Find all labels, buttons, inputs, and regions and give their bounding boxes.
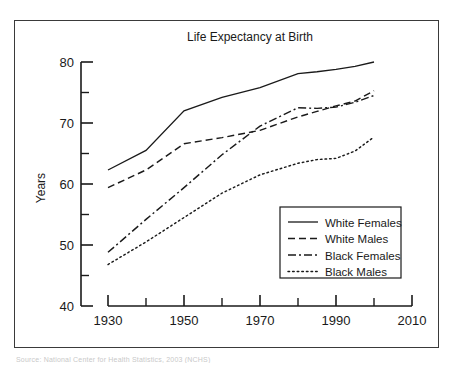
x-axis-tick-labels: 19301950197019902010 [94, 313, 427, 328]
y-axis-tick-labels: 4050607080 [60, 55, 74, 314]
series-line-white-females [108, 62, 374, 170]
chart-legend[interactable]: White FemalesWhite MalesBlack FemalesBla… [280, 207, 402, 278]
legend-label-black-females[interactable]: Black Females [325, 250, 401, 262]
y-tick-label: 60 [60, 177, 74, 192]
x-tick-label: 1970 [246, 313, 275, 328]
y-axis-ticks [81, 62, 93, 306]
figure-caption: Source: National Center for Health Stati… [16, 356, 446, 363]
x-tick-label: 2010 [398, 313, 427, 328]
legend-label-white-females[interactable]: White Females [325, 217, 402, 229]
y-tick-label: 40 [60, 299, 74, 314]
x-tick-label: 1990 [322, 313, 351, 328]
series-line-white-males [108, 91, 374, 188]
chart-title: Life Expectancy at Birth [187, 30, 313, 44]
y-tick-label: 50 [60, 238, 74, 253]
y-axis-title: Years [34, 173, 48, 203]
x-tick-label: 1930 [94, 313, 123, 328]
x-axis-ticks [108, 295, 412, 306]
x-tick-label: 1950 [170, 313, 199, 328]
life-expectancy-line-chart: 4050607080 19301950197019902010 Life Exp… [0, 0, 460, 369]
legend-label-black-males[interactable]: Black Males [325, 266, 387, 278]
y-tick-label: 80 [60, 55, 74, 70]
legend-label-white-males[interactable]: White Males [325, 233, 389, 245]
figure-container: 4050607080 19301950197019902010 Life Exp… [0, 0, 460, 369]
y-tick-label: 70 [60, 116, 74, 131]
